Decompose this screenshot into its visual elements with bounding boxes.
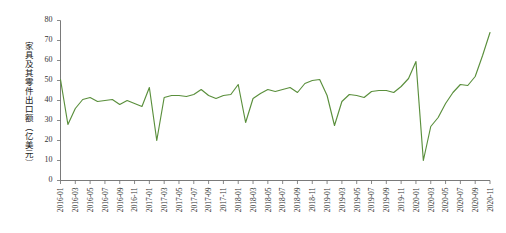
x-axis-tick-label: 2019-09 [382,187,391,212]
x-axis-tick-label: 2018-07 [278,187,287,212]
x-axis-tick-labels: 2016-012016-032016-052016-072016-092016-… [56,187,495,212]
x-axis-tick-label: 2019-03 [338,187,347,212]
x-axis-tick-label: 2016-07 [101,187,110,212]
line-chart-plot: 01020304050607080 2016-012016-032016-052… [0,0,506,233]
y-axis-tick-marks [57,21,61,181]
y-axis-tick-label: 30 [45,115,53,124]
x-axis-tick-label: 2019-01 [323,187,332,212]
x-axis-tick-label: 2020-01 [412,187,421,212]
x-axis-tick-label: 2018-11 [308,187,317,212]
y-axis-tick-label: 40 [45,95,53,104]
y-axis-tick-label: 80 [45,15,53,24]
y-axis-tick-label: 0 [49,175,53,184]
x-axis-tick-label: 2016-03 [71,187,80,212]
data-series-line [61,33,491,161]
x-axis-tick-label: 2020-03 [427,187,436,212]
y-axis-tick-label: 10 [45,155,53,164]
x-axis-tick-label: 2020-09 [471,187,480,212]
y-axis-tick-label: 70 [45,35,53,44]
y-axis-tick-label: 20 [45,135,53,144]
x-axis-tick-label: 2017-09 [204,187,213,212]
x-axis-tick-label: 2018-09 [293,187,302,212]
x-axis-tick-label: 2017-05 [175,187,184,212]
x-axis-tick-label: 2017-03 [160,187,169,212]
x-axis-tick-label: 2020-11 [486,187,495,212]
chart-container: 家具及其零件出口额（亿美元） 01020304050607080 2016-01… [0,0,506,233]
y-axis-tick-label: 50 [45,75,53,84]
x-axis-tick-label: 2020-05 [441,187,450,212]
x-axis-tick-label: 2018-05 [264,187,273,212]
x-axis-tick-label: 2019-05 [353,187,362,212]
x-axis-tick-label: 2017-07 [190,187,199,212]
x-axis-tick-marks [61,181,491,185]
x-axis-tick-label: 2018-01 [234,187,243,212]
x-axis-tick-label: 2017-01 [145,187,154,212]
y-axis-tick-label: 60 [45,55,53,64]
x-axis-tick-label: 2017-11 [219,187,228,212]
x-axis-tick-label: 2020-07 [456,187,465,212]
x-axis-tick-label: 2016-11 [130,187,139,212]
x-axis-tick-label: 2016-01 [56,187,65,212]
x-axis-tick-label: 2016-05 [86,187,95,212]
x-axis-tick-label: 2018-03 [249,187,258,212]
x-axis-tick-label: 2019-11 [397,187,406,212]
x-axis-tick-label: 2019-07 [367,187,376,212]
x-axis-tick-label: 2016-09 [116,187,125,212]
y-axis-tick-labels: 01020304050607080 [45,15,53,184]
